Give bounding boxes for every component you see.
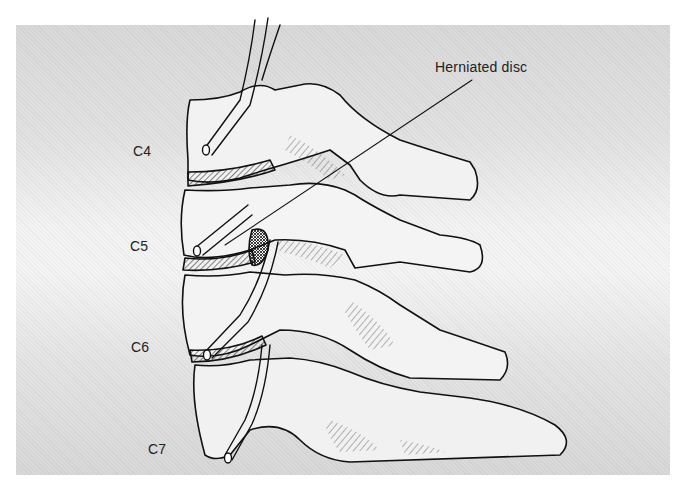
vertebra-c4 — [187, 84, 478, 200]
cervical-spine-illustration — [0, 0, 687, 488]
herniated-disc-label: Herniated disc — [435, 59, 527, 75]
vertebra-label-c4: C4 — [133, 143, 151, 159]
vertebra-label-c7: C7 — [148, 441, 166, 457]
vertebra-label-c6: C6 — [131, 339, 149, 355]
vertebra-label-c5: C5 — [130, 238, 148, 254]
